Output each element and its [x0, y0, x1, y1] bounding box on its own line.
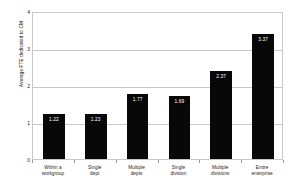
bar-value-label: 1.22	[43, 117, 65, 122]
bar: 1.77	[127, 94, 149, 159]
y-axis-tick-label: 3	[17, 47, 30, 52]
category-label-line: division	[158, 171, 200, 177]
category-label-line: depts	[116, 171, 158, 177]
bar-value-label: 1.69	[169, 99, 191, 104]
bar: 1.69	[169, 96, 191, 159]
bars-layer: 1.221.231.771.692.373.37	[33, 13, 282, 159]
x-axis-category-label: Singledept	[74, 165, 116, 177]
x-axis-tick-mark	[199, 160, 200, 163]
y-axis-tick-label: 1	[17, 121, 30, 126]
bar-chart-figure: Average FTE dedicated to CM 01234 1.221.…	[0, 0, 301, 190]
x-axis-tick-mark	[158, 160, 159, 163]
y-axis-tick-labels: 01234	[17, 12, 30, 160]
y-axis-tick-label: 2	[17, 84, 30, 89]
x-axis-category-labels: Within aworkgroupSingledeptMultipledepts…	[32, 165, 283, 187]
bar: 1.23	[85, 114, 107, 160]
y-axis-tick-label: 0	[17, 158, 30, 163]
x-axis-tick-mark	[116, 160, 117, 163]
x-axis-category-label: Entireenterprise	[241, 165, 283, 177]
category-label-line: enterprise	[241, 171, 283, 177]
category-label-line: workgroup	[32, 171, 74, 177]
x-axis-tick-mark	[74, 160, 75, 163]
x-axis-tick-mark	[241, 160, 242, 163]
x-axis-category-label: Within aworkgroup	[32, 165, 74, 177]
y-axis-tick-label: 4	[17, 10, 30, 15]
x-axis-category-label: Singledivision	[158, 165, 200, 177]
x-axis-tick-mark	[283, 160, 284, 163]
bar-value-label: 2.37	[210, 74, 232, 79]
bar: 2.37	[210, 71, 232, 159]
category-label-line: dept	[74, 171, 116, 177]
category-label-line: divisions	[199, 171, 241, 177]
plot-area: 1.221.231.771.692.373.37	[32, 12, 283, 160]
bar-value-label: 3.37	[252, 37, 274, 42]
bar-value-label: 1.77	[127, 97, 149, 102]
bar: 3.37	[252, 34, 274, 159]
x-axis-tick-mark	[32, 160, 33, 163]
x-axis-category-label: Multipledepts	[116, 165, 158, 177]
bar: 1.22	[43, 114, 65, 159]
x-axis-category-label: Multipledivisions	[199, 165, 241, 177]
bar-value-label: 1.23	[85, 117, 107, 122]
